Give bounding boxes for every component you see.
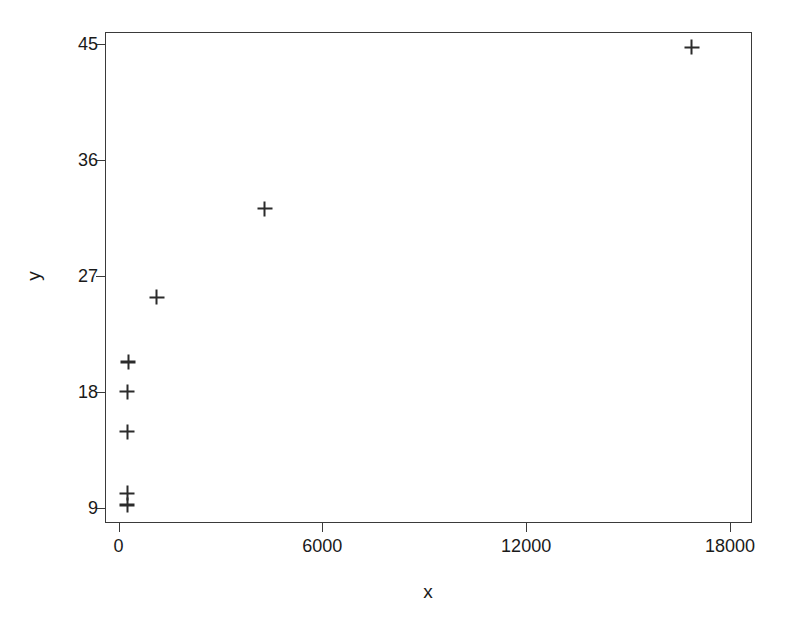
- data-point-marker: [120, 486, 135, 501]
- y-tick-label: 18: [78, 383, 98, 401]
- scatter-plot-figure: 918273645 060001200018000 y x: [0, 0, 795, 617]
- y-axis-label-text: y: [24, 271, 43, 281]
- x-tick-mark: [526, 523, 527, 532]
- plot-area: 918273645 060001200018000: [105, 32, 752, 523]
- x-tick-label: 0: [114, 537, 124, 555]
- data-point-marker: [120, 497, 135, 512]
- y-tick-label: 36: [78, 151, 98, 169]
- x-tick-label: 18000: [705, 537, 755, 555]
- x-tick-mark: [322, 523, 323, 532]
- x-axis-label: x: [423, 582, 433, 601]
- data-point-marker: [257, 201, 272, 216]
- x-tick-mark: [730, 523, 731, 532]
- y-tick-label: 9: [88, 499, 98, 517]
- data-point-marker: [149, 290, 164, 305]
- x-tick-label: 12000: [501, 537, 551, 555]
- data-point-marker: [120, 384, 135, 399]
- x-tick-label: 6000: [302, 537, 342, 555]
- y-tick-label: 27: [78, 267, 98, 285]
- y-tick-label: 45: [78, 35, 98, 53]
- data-point-marker: [121, 354, 136, 369]
- data-point-marker: [120, 424, 135, 439]
- y-axis-label: y: [28, 267, 38, 286]
- x-tick-mark: [119, 523, 120, 532]
- data-point-marker: [684, 40, 699, 55]
